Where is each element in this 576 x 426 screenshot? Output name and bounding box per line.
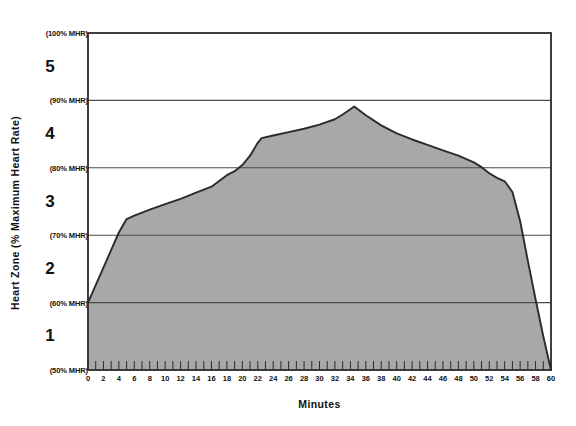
x-tick-label-56: 56: [516, 374, 524, 383]
x-tick-label-22: 22: [254, 374, 262, 383]
x-tick-label-4: 4: [117, 374, 121, 383]
x-tick-label-46: 46: [439, 374, 447, 383]
x-tick-label-12: 12: [176, 374, 184, 383]
x-tick-label-20: 20: [238, 374, 246, 383]
x-tick-label-50: 50: [470, 374, 478, 383]
x-tick-label-2: 2: [101, 374, 105, 383]
x-axis-tick-label-group: 0246810121416182022242628303234363840424…: [0, 0, 576, 426]
x-tick-label-26: 26: [284, 374, 292, 383]
x-tick-label-14: 14: [192, 374, 200, 383]
x-tick-label-32: 32: [331, 374, 339, 383]
x-tick-label-24: 24: [269, 374, 277, 383]
x-tick-label-42: 42: [408, 374, 416, 383]
x-tick-label-34: 34: [346, 374, 354, 383]
x-tick-label-8: 8: [148, 374, 152, 383]
x-tick-label-18: 18: [223, 374, 231, 383]
x-tick-label-10: 10: [161, 374, 169, 383]
x-tick-label-28: 28: [300, 374, 308, 383]
x-tick-label-40: 40: [392, 374, 400, 383]
x-tick-label-38: 38: [377, 374, 385, 383]
x-tick-label-48: 48: [454, 374, 462, 383]
x-tick-label-54: 54: [501, 374, 509, 383]
heart-zone-chart: Heart Zone (% Maximum Heart Rate) (50% M…: [0, 0, 576, 426]
x-tick-label-6: 6: [132, 374, 136, 383]
x-tick-label-36: 36: [362, 374, 370, 383]
x-tick-label-16: 16: [207, 374, 215, 383]
x-tick-label-44: 44: [423, 374, 431, 383]
x-tick-label-52: 52: [485, 374, 493, 383]
x-tick-label-60: 60: [547, 374, 555, 383]
x-tick-label-0: 0: [86, 374, 90, 383]
x-tick-label-58: 58: [531, 374, 539, 383]
x-axis-title: Minutes: [88, 398, 551, 410]
x-tick-label-30: 30: [315, 374, 323, 383]
